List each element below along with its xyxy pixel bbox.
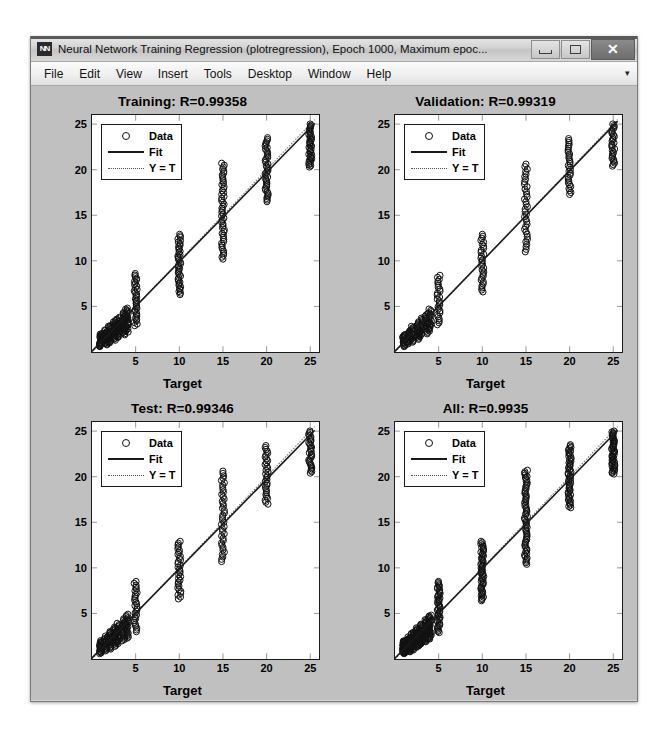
legend-validation[interactable]: DataFitY = T: [404, 124, 485, 180]
legend-entry-y-t: Y = T: [106, 468, 175, 482]
minimize-icon: [539, 50, 552, 54]
matlab-nn-icon: NN: [37, 42, 52, 56]
axes-all: 510152025510152025DataFitY = T: [394, 421, 623, 660]
solid-line-icon: [409, 151, 449, 153]
x-tick-label: 25: [607, 355, 619, 367]
circle-marker-icon: [106, 439, 146, 447]
solid-line-icon: [106, 458, 146, 460]
legend-entry-y-t: Y = T: [409, 468, 478, 482]
x-tick-label: 25: [607, 662, 619, 674]
x-axis-label-training: Target: [31, 376, 334, 391]
dotted-line-icon: [409, 475, 449, 476]
maximize-icon: [570, 45, 581, 54]
menu-item-edit[interactable]: Edit: [71, 65, 108, 83]
menu-item-help[interactable]: Help: [359, 65, 400, 83]
menu-item-file[interactable]: File: [36, 65, 71, 83]
y-tick-label: 15: [378, 209, 390, 221]
legend-all[interactable]: DataFitY = T: [404, 431, 485, 487]
x-tick-label: 5: [436, 662, 442, 674]
x-tick-label: 15: [520, 662, 532, 674]
y-tick-label: 5: [384, 300, 390, 312]
maximize-button[interactable]: [561, 40, 590, 59]
subplot-training: Training: R=0.99358Output ~= 0.98*Target…: [31, 86, 334, 393]
legend-entry-data: Data: [409, 129, 478, 143]
subplot-title-validation: Validation: R=0.99319: [334, 94, 637, 109]
legend-entry-data: Data: [106, 436, 175, 450]
legend-entry-y-t: Y = T: [409, 161, 478, 175]
solid-line-icon: [409, 458, 449, 460]
solid-line: [108, 151, 144, 153]
legend-entry-fit: Fit: [106, 452, 175, 466]
x-tick-label: 10: [476, 355, 488, 367]
legend-test[interactable]: DataFitY = T: [101, 431, 182, 487]
dotted-line: [411, 475, 447, 476]
legend-label: Data: [452, 437, 476, 449]
legend-label: Data: [149, 437, 173, 449]
menu-overflow-icon[interactable]: ▾: [625, 69, 630, 78]
legend-label: Fit: [452, 453, 465, 465]
x-tick-label: 25: [304, 355, 316, 367]
window-controls: ✕: [531, 37, 637, 61]
x-tick-label: 20: [563, 355, 575, 367]
legend-entry-data: Data: [409, 436, 478, 450]
solid-line: [411, 458, 447, 460]
menu-item-desktop[interactable]: Desktop: [240, 65, 300, 83]
legend-label: Fit: [452, 146, 465, 158]
title-bar: NN Neural Network Training Regression (p…: [31, 37, 637, 62]
subplot-all: All: R=0.9935Output ~= 0.98*Target + 0.0…: [334, 393, 637, 700]
subplot-title-all: All: R=0.9935: [334, 401, 637, 416]
minimize-button[interactable]: [531, 40, 560, 59]
y-tick-label: 15: [75, 516, 87, 528]
dotted-line: [108, 475, 144, 476]
legend-label: Y = T: [452, 162, 478, 174]
y-tick-label: 10: [378, 255, 390, 267]
x-tick-label: 20: [563, 662, 575, 674]
x-tick-label: 10: [476, 662, 488, 674]
menu-item-view[interactable]: View: [108, 65, 150, 83]
menu-item-window[interactable]: Window: [300, 65, 359, 83]
y-tick-label: 20: [378, 471, 390, 483]
x-axis-label-test: Target: [31, 683, 334, 698]
legend-training[interactable]: DataFitY = T: [101, 124, 182, 180]
y-tick-label: 15: [378, 516, 390, 528]
circle-marker: [425, 439, 433, 447]
y-tick-label: 10: [378, 562, 390, 574]
circle-marker-icon: [409, 132, 449, 140]
x-tick-label: 15: [217, 662, 229, 674]
screen: { "window": { "title": "Neural Network T…: [0, 0, 672, 732]
menu-item-insert[interactable]: Insert: [150, 65, 196, 83]
y-tick-label: 20: [378, 164, 390, 176]
x-tick-label: 25: [304, 662, 316, 674]
legend-entry-fit: Fit: [409, 145, 478, 159]
solid-line: [411, 151, 447, 153]
legend-label: Fit: [149, 453, 162, 465]
x-tick-label: 5: [436, 355, 442, 367]
subplot-grid: Training: R=0.99358Output ~= 0.98*Target…: [31, 86, 637, 700]
dotted-line: [108, 168, 144, 169]
legend-entry-fit: Fit: [409, 452, 478, 466]
x-tick-label: 5: [133, 355, 139, 367]
x-tick-label: 20: [260, 662, 272, 674]
subplot-title-test: Test: R=0.99346: [31, 401, 334, 416]
y-tick-label: 20: [75, 471, 87, 483]
subplot-title-training: Training: R=0.99358: [31, 94, 334, 109]
dotted-line-icon: [106, 475, 146, 476]
legend-label: Y = T: [149, 162, 175, 174]
y-tick-label: 5: [81, 300, 87, 312]
legend-label: Y = T: [149, 469, 175, 481]
x-tick-label: 20: [260, 355, 272, 367]
dotted-line-icon: [106, 168, 146, 169]
y-tick-label: 5: [81, 607, 87, 619]
axes-training: 510152025510152025DataFitY = T: [91, 114, 320, 353]
menu-item-tools[interactable]: Tools: [196, 65, 240, 83]
x-tick-label: 10: [173, 355, 185, 367]
circle-marker: [122, 132, 130, 140]
close-button[interactable]: ✕: [591, 39, 635, 60]
axes-test: 510152025510152025DataFitY = T: [91, 421, 320, 660]
legend-label: Data: [452, 130, 476, 142]
solid-line: [108, 458, 144, 460]
y-tick-label: 15: [75, 209, 87, 221]
dotted-line-icon: [409, 168, 449, 169]
x-tick-label: 10: [173, 662, 185, 674]
legend-entry-fit: Fit: [106, 145, 175, 159]
